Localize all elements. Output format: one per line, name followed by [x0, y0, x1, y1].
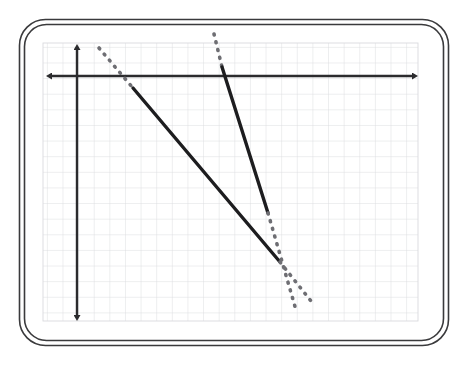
graph-illustration	[0, 0, 464, 367]
screenshot-canvas	[0, 0, 464, 367]
grid-area	[43, 43, 418, 321]
